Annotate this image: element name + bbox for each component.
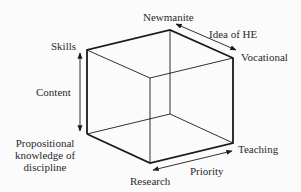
cube-back-edges (87, 30, 233, 143)
label-idea-of-he: Idea of HE (209, 28, 257, 40)
label-propositional-line1: Propositional (13, 137, 77, 149)
label-skills: Skills (51, 40, 76, 52)
cube-front-inner-edges (87, 50, 233, 163)
cube-outline (87, 30, 233, 163)
label-newmanite: Newmanite (143, 11, 194, 23)
label-teaching: Teaching (238, 143, 278, 155)
label-propositional-knowledge: Propositional knowledge of discipline (13, 137, 77, 173)
label-content: Content (36, 86, 71, 98)
label-research: Research (130, 175, 170, 187)
label-priority: Priority (190, 165, 224, 177)
label-vocational: Vocational (241, 51, 288, 63)
label-propositional-line3: discipline (13, 161, 77, 173)
label-propositional-line2: knowledge of (13, 149, 77, 161)
